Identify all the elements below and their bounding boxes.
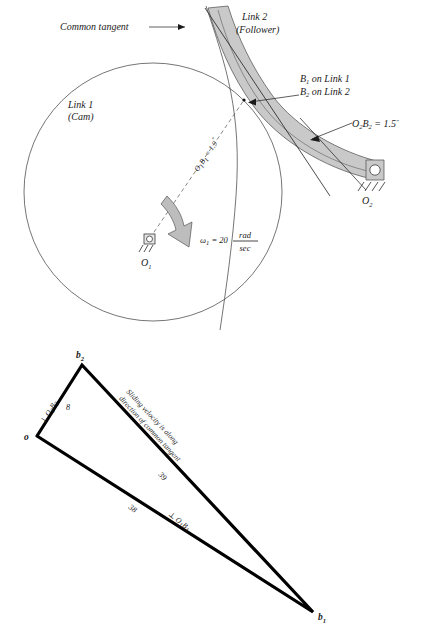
pivot-o2-hatching — [358, 182, 385, 191]
vertex-label-o: o — [24, 432, 29, 442]
pivot-o1-hatching — [139, 245, 153, 252]
contact-label-b2: B2 on Link 2 — [300, 86, 350, 98]
contact-point-b — [242, 98, 245, 101]
o2b2-dimension-label: O2B2 = 1.5" — [352, 118, 399, 130]
pivot-o1-hole — [147, 236, 153, 242]
omega1-label: ω1 = 20 — [200, 235, 229, 246]
contact-label-b1: B1 on Link 1 — [300, 73, 350, 85]
vertex-label-b2: b2 — [76, 350, 85, 362]
o2b2-dimension-leader — [310, 123, 352, 142]
link2-label-line1: Link 2 — [241, 11, 267, 22]
pivot-o1 — [139, 234, 155, 252]
velocity-polygon-diagram: o b2 b1 ⊥ O2B2 8 Sliding velocity is alo… — [24, 350, 326, 624]
follower-band-link2 — [208, 6, 380, 178]
magnitude-b2b1-group: 39 — [156, 469, 169, 482]
o1b1-dimension-group: O1B1 = 1.9" — [191, 136, 222, 174]
pivot-o1-label: O1 — [141, 257, 151, 270]
magnitude-ob2: 8 — [66, 403, 70, 412]
cam-follower-diagram: Common tangent Link 1 (Cam) Link 2 (Foll… — [24, 6, 399, 330]
omega1-units-denominator: sec — [240, 243, 251, 253]
technical-figure: Common tangent Link 1 (Cam) Link 2 (Foll… — [0, 0, 442, 637]
magnitude-ob1: 38 — [126, 502, 139, 515]
link2-label-line2: (Follower) — [236, 24, 280, 36]
perp-o2b2-group: ⊥ O2B2 — [38, 398, 60, 425]
link1-label-line2: (Cam) — [68, 111, 94, 123]
figure-root: Common tangent Link 1 (Cam) Link 2 (Foll… — [0, 0, 442, 637]
cam-circle-link1 — [24, 63, 282, 321]
common-tangent-leader — [149, 24, 185, 30]
omega1-units-numerator: rad — [239, 230, 252, 240]
perp-o2b2-label: ⊥ O2B2 — [38, 398, 60, 425]
omega1-annotation: ω1 = 20 rad sec — [200, 230, 258, 253]
vertex-label-b1: b1 — [318, 612, 326, 624]
pivot-o2-label: O2 — [362, 195, 373, 208]
omega1-rotation-arrow — [161, 196, 192, 247]
pivot-o2-hole — [370, 165, 380, 175]
velocity-triangle — [37, 365, 313, 612]
link1-label-line1: Link 1 — [67, 99, 93, 110]
sliding-velocity-note: Sliding velocity is along direction of c… — [117, 387, 190, 464]
common-tangent-line — [205, 8, 330, 196]
common-tangent-label: Common tangent — [60, 21, 129, 32]
magnitude-b2b1: 39 — [156, 469, 169, 482]
magnitude-ob1-group: 38 — [126, 502, 139, 515]
sliding-velocity-line2: direction of common tangent — [117, 394, 183, 464]
o1b1-dimension-label: O1B1 = 1.9" — [191, 136, 222, 174]
